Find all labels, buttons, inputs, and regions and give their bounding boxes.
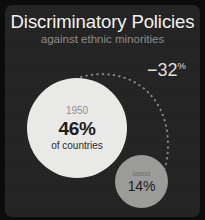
bubble-1950-year-label: 1950: [66, 106, 88, 116]
page-title: Discriminatory Policies: [5, 13, 200, 32]
bubble-1950: 1950 46% of countries: [27, 78, 127, 178]
card-panel: Discriminatory Policies against ethnic m…: [5, 5, 200, 217]
change-value: −32: [147, 60, 178, 80]
bubble-1950-value: 46%: [58, 119, 95, 138]
change-annotation: −32%: [147, 61, 186, 79]
page-subtitle: against ethnic minorities: [5, 34, 200, 46]
change-percent-sign: %: [178, 60, 186, 71]
bubble-latest-value: 14%: [128, 179, 155, 193]
infographic-card: Discriminatory Policies against ethnic m…: [0, 0, 205, 220]
bubble-1950-unit-label: of countries: [51, 141, 103, 151]
bubble-latest-year-label: latest: [133, 170, 151, 178]
bubble-latest: latest 14%: [115, 155, 168, 208]
